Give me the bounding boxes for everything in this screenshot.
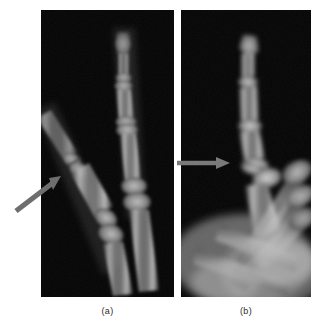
xray-image-a bbox=[41, 10, 174, 297]
radiograph-figure: (a) (b) bbox=[0, 0, 328, 331]
panel-b-caption: (b) bbox=[181, 306, 311, 316]
radiograph-panel-b[interactable] bbox=[181, 10, 311, 297]
panel-a-caption: (a) bbox=[41, 306, 174, 316]
radiograph-panel-a[interactable] bbox=[41, 10, 174, 297]
xray-image-b bbox=[181, 10, 311, 297]
